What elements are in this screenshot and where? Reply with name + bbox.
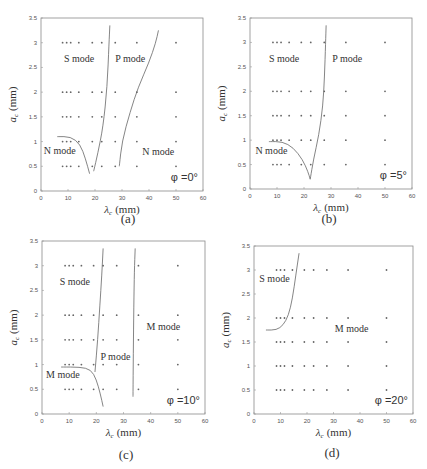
sample-point <box>276 317 278 319</box>
mode-boundary-curve <box>133 248 135 396</box>
sample-point <box>91 141 93 143</box>
sample-point <box>62 165 64 167</box>
sample-point <box>280 90 282 92</box>
x-tick-label: 0 <box>39 195 43 201</box>
sample-point <box>280 139 282 141</box>
sample-point <box>68 388 70 390</box>
y-axis-title: ac(mm) <box>215 85 229 121</box>
sample-point <box>68 339 70 341</box>
x-tick-label: 20 <box>301 193 308 199</box>
x-tick-label: 30 <box>330 418 337 424</box>
y-tick-label: 1 <box>34 139 38 145</box>
sample-point <box>288 42 290 44</box>
y-tick-label: 2.5 <box>29 64 38 70</box>
mode-boundary-curve <box>94 25 110 171</box>
sample-point <box>384 90 386 92</box>
sample-point <box>276 269 278 271</box>
sample-point <box>64 314 66 316</box>
y-tick-label: 2 <box>247 315 251 321</box>
y-tick-label: 2 <box>34 89 38 95</box>
sample-point <box>102 314 104 316</box>
sample-point <box>280 365 282 367</box>
sample-point <box>272 164 274 166</box>
panel-b: 010203040506000.511.522.533.5λc(mm)ac(mm… <box>214 0 427 235</box>
y-tick-label: 0.5 <box>29 163 38 169</box>
y-tick-label: 0.5 <box>242 387 251 393</box>
sample-point <box>276 164 278 166</box>
x-tick-label: 50 <box>383 418 390 424</box>
sample-point <box>272 139 274 141</box>
region-label: P mode <box>332 53 362 64</box>
sample-point <box>62 42 64 44</box>
sample-point <box>292 365 294 367</box>
sample-point <box>72 314 74 316</box>
sample-point <box>280 341 282 343</box>
x-tick-label: 40 <box>355 193 362 199</box>
x-tick-label: 50 <box>382 193 389 199</box>
x-tick-label: 60 <box>409 193 416 199</box>
region-label: M mode <box>335 323 369 334</box>
sample-point <box>386 317 388 319</box>
sample-point <box>93 364 95 366</box>
plot-frame <box>42 241 205 414</box>
sample-point <box>68 364 70 366</box>
sample-point <box>101 116 103 118</box>
sample-point <box>323 164 325 166</box>
sample-point <box>310 164 312 166</box>
sample-point <box>292 269 294 271</box>
region-label: S mode <box>269 53 300 64</box>
region-label: S mode <box>60 276 91 287</box>
sample-point <box>91 42 93 44</box>
sample-point <box>64 388 66 390</box>
sample-point <box>70 42 72 44</box>
sample-point <box>310 139 312 141</box>
sample-point <box>93 265 95 267</box>
sample-point <box>114 42 116 44</box>
region-label: N mode <box>44 145 76 156</box>
sample-point <box>276 389 278 391</box>
x-tick-label: 0 <box>40 418 44 424</box>
sample-point <box>114 165 116 167</box>
sample-point <box>345 115 347 117</box>
sample-point <box>138 339 140 341</box>
sample-point <box>310 42 312 44</box>
sample-point <box>136 165 138 167</box>
sample-point <box>384 115 386 117</box>
sample-point <box>136 116 138 118</box>
sample-point <box>288 90 290 92</box>
sample-point <box>177 265 179 267</box>
x-tick-label: 20 <box>92 195 99 201</box>
y-tick-label: 0.5 <box>30 386 39 392</box>
x-tick-label: 30 <box>328 193 335 199</box>
phi-annotation: φ =0° <box>171 171 198 183</box>
sample-point <box>62 116 64 118</box>
sample-point <box>347 341 349 343</box>
sample-point <box>386 269 388 271</box>
sample-point <box>280 269 282 271</box>
y-tick-label: 2.5 <box>238 64 247 70</box>
sample-point <box>288 164 290 166</box>
y-tick-label: 3 <box>247 267 251 273</box>
sample-point <box>177 314 179 316</box>
sample-point <box>175 141 177 143</box>
sample-point <box>80 364 82 366</box>
sample-point <box>138 388 140 390</box>
x-tick-label: 50 <box>174 418 181 424</box>
sample-point <box>284 365 286 367</box>
sample-point <box>313 317 315 319</box>
sample-point <box>345 139 347 141</box>
y-tick-label: 1 <box>243 137 247 143</box>
sample-point <box>80 314 82 316</box>
x-tick-label: 20 <box>304 418 311 424</box>
sample-point <box>68 265 70 267</box>
region-label: P mode <box>115 53 145 64</box>
sample-point <box>323 139 325 141</box>
sample-point <box>78 91 80 93</box>
sample-point <box>292 389 294 391</box>
sample-point <box>80 265 82 267</box>
sample-point <box>136 42 138 44</box>
sample-point <box>276 139 278 141</box>
sample-point <box>62 141 64 143</box>
sample-point <box>64 339 66 341</box>
sample-point <box>66 42 68 44</box>
